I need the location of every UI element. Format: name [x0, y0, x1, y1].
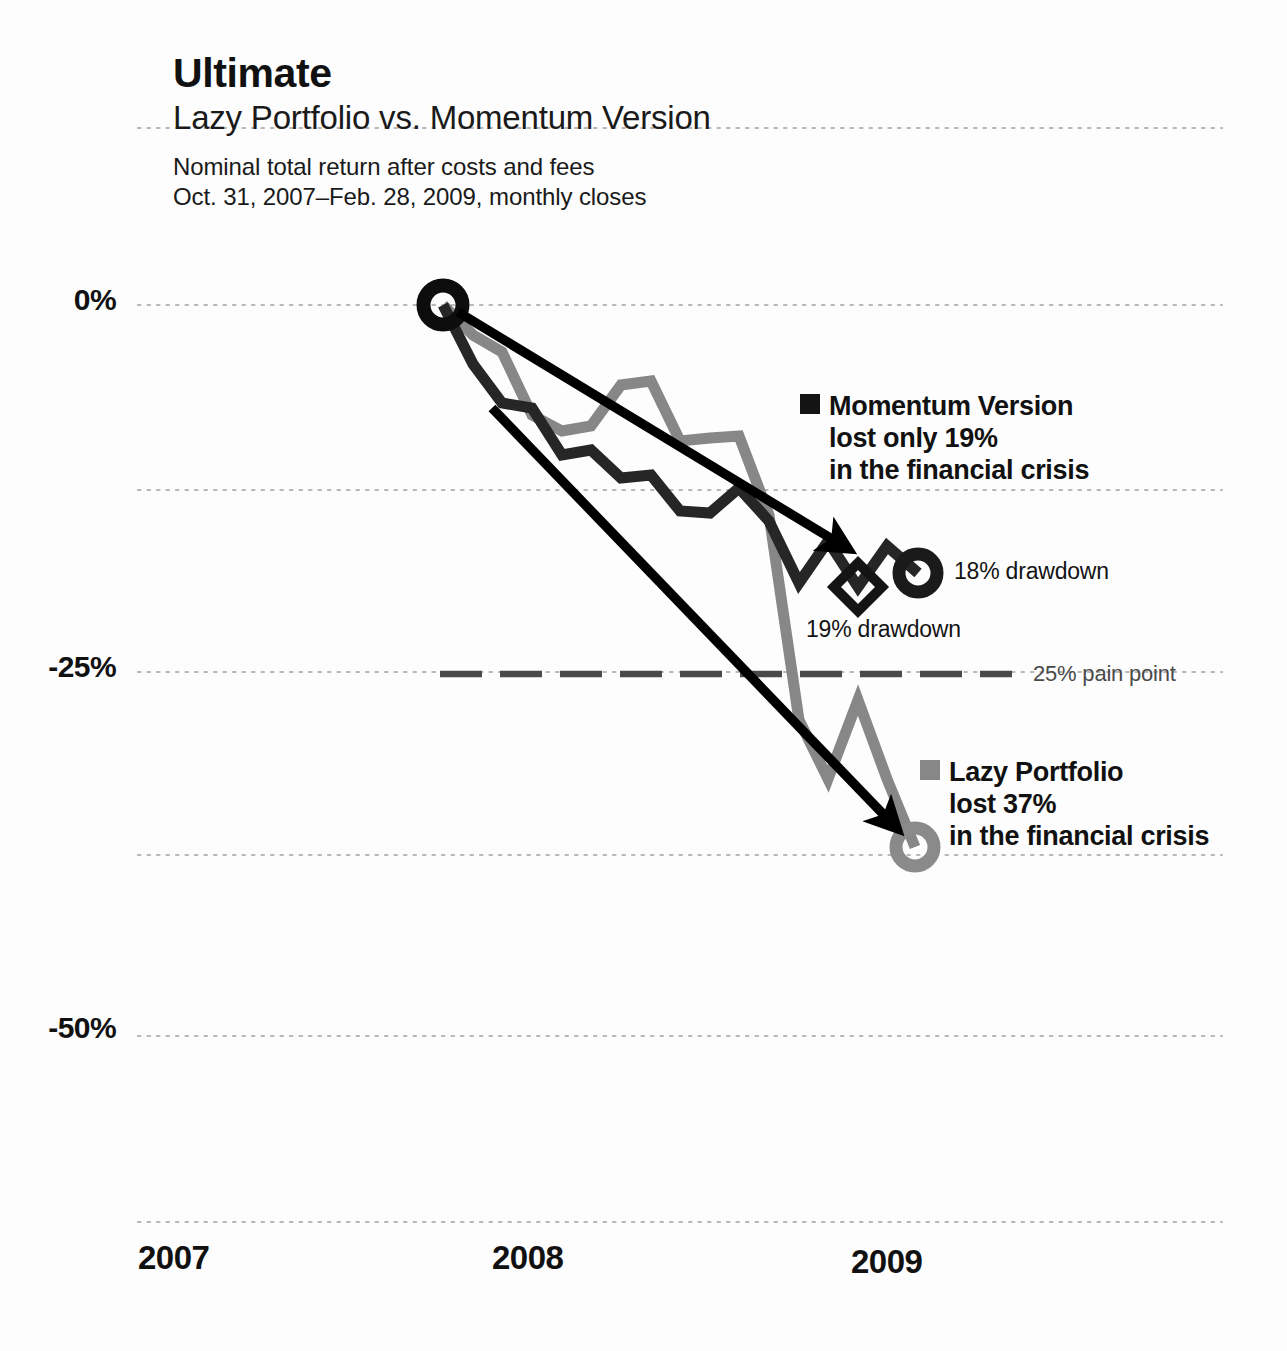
- chart-page: Ultimate Lazy Portfolio vs. Momentum Ver…: [0, 0, 1287, 1351]
- lazy-legend-swatch-icon: [920, 760, 940, 780]
- chart-subheadline: Lazy Portfolio vs. Momentum Version: [173, 99, 793, 137]
- momentum-callout-line-2: lost only 19%: [829, 423, 1089, 455]
- chart-deck-line-2: Oct. 31, 2007–Feb. 28, 2009, monthly clo…: [173, 182, 793, 213]
- lazy-callout-line-3: in the financial crisis: [949, 821, 1209, 853]
- x-axis-tick-2007: 2007: [138, 1239, 209, 1277]
- y-axis-tick-minus50: -50%: [0, 1011, 116, 1045]
- y-axis-tick-minus25: -25%: [0, 650, 116, 684]
- lazy-callout: Lazy Portfolio lost 37% in the financial…: [920, 757, 1209, 853]
- momentum-callout-label: Momentum Version: [829, 391, 1073, 421]
- pain-point-label: 25% pain point: [1033, 661, 1176, 687]
- lazy-callout-line-1: Lazy Portfolio: [920, 757, 1209, 789]
- lazy-callout-label: Lazy Portfolio: [949, 757, 1123, 787]
- chart-deck: Nominal total return after costs and fee…: [173, 152, 793, 213]
- lazy-drawdown-label: 19% drawdown: [806, 616, 961, 643]
- x-axis-tick-2009: 2009: [851, 1243, 922, 1281]
- momentum-callout: Momentum Version lost only 19% in the fi…: [800, 391, 1089, 487]
- momentum-drawdown-label: 18% drawdown: [954, 558, 1109, 585]
- momentum-callout-line-1: Momentum Version: [800, 391, 1089, 423]
- y-axis-tick-0: 0%: [0, 283, 116, 317]
- chart-title-block: Ultimate Lazy Portfolio vs. Momentum Ver…: [173, 52, 793, 213]
- chart-headline: Ultimate: [173, 52, 793, 95]
- x-axis-tick-2008: 2008: [492, 1239, 563, 1277]
- momentum-legend-swatch-icon: [800, 394, 820, 414]
- momentum-callout-line-3: in the financial crisis: [829, 455, 1089, 487]
- chart-deck-line-1: Nominal total return after costs and fee…: [173, 152, 793, 183]
- lazy-callout-line-2: lost 37%: [949, 789, 1209, 821]
